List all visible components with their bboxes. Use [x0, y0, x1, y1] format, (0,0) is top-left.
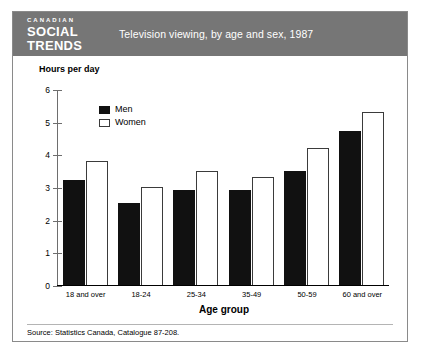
bar-men[interactable] [118, 203, 140, 285]
y-tick-label: 3 [45, 183, 50, 193]
y-axis-title: Hours per day [39, 64, 100, 74]
plot-area: 0123456 Men Women [57, 90, 389, 286]
bar-women[interactable] [252, 177, 274, 285]
source-note: Source: Statistics Canada, Catalogue 87-… [27, 328, 179, 337]
bar-men[interactable] [229, 190, 251, 285]
bar-group [168, 90, 223, 285]
x-category-label: 25-34 [169, 290, 224, 299]
y-tick-label: 4 [45, 150, 50, 160]
y-tick-label: 5 [45, 118, 50, 128]
bar-women[interactable] [196, 171, 218, 285]
y-tick-mark [53, 286, 62, 287]
bar-groups [58, 90, 389, 285]
bar-men[interactable] [339, 131, 361, 285]
bar-group [224, 90, 279, 285]
source-divider [27, 324, 393, 325]
masthead-line-social: SOCIAL [27, 25, 109, 38]
bar-men[interactable] [63, 180, 85, 285]
bar-men[interactable] [284, 171, 306, 285]
x-category-label: 60 and over [335, 290, 390, 299]
bar-women[interactable] [141, 187, 163, 285]
x-category-label: 35-49 [224, 290, 279, 299]
canadian-social-trends-logo: CANADIAN SOCIAL TRENDS [13, 17, 109, 52]
x-category-label: 18-24 [113, 290, 168, 299]
bar-women[interactable] [86, 161, 108, 285]
bar-men[interactable] [173, 190, 195, 285]
y-tick-label: 1 [45, 248, 50, 258]
figure-panel: CANADIAN SOCIAL TRENDS Television viewin… [12, 11, 408, 342]
x-axis-title: Age group [58, 304, 390, 315]
x-category-label: 18 and over [58, 290, 113, 299]
bar-group [113, 90, 168, 285]
y-tick-label: 0 [45, 281, 50, 291]
bar-group [334, 90, 389, 285]
bar-women[interactable] [362, 112, 384, 285]
bar-group [58, 90, 113, 285]
x-category-label: 50-59 [279, 290, 334, 299]
bar-group [279, 90, 334, 285]
masthead-line-canadian: CANADIAN [27, 17, 109, 23]
y-tick-label: 6 [45, 85, 50, 95]
masthead-line-trends: TRENDS [27, 39, 109, 52]
x-axis-baseline [57, 285, 389, 286]
chart-title: Television viewing, by age and sex, 1987 [119, 28, 313, 40]
header-band: CANADIAN SOCIAL TRENDS Television viewin… [13, 12, 407, 56]
bar-women[interactable] [307, 148, 329, 285]
x-axis-category-labels: 18 and over18-2425-3435-4950-5960 and ov… [58, 290, 390, 299]
y-tick-label: 2 [45, 216, 50, 226]
